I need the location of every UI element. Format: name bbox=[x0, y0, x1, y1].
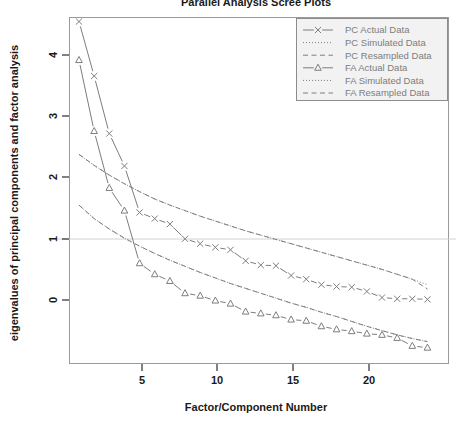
series-segment bbox=[126, 215, 138, 258]
series-segment bbox=[311, 281, 317, 283]
series-line bbox=[79, 205, 427, 341]
data-point-x-marker bbox=[212, 244, 218, 250]
data-point-triangle-marker bbox=[91, 127, 98, 133]
data-point-x-marker bbox=[197, 241, 203, 247]
series-segment bbox=[80, 65, 93, 126]
data-point-x-marker bbox=[409, 296, 415, 302]
data-point-x-marker bbox=[394, 296, 400, 302]
data-point-x-marker bbox=[349, 284, 355, 290]
data-point-triangle-marker bbox=[227, 300, 234, 306]
series-segment bbox=[402, 340, 408, 343]
series-segment bbox=[144, 214, 150, 216]
data-point-x-marker bbox=[167, 221, 173, 227]
data-point-triangle-marker bbox=[76, 56, 83, 62]
x-tick-label-15: 15 bbox=[287, 374, 299, 386]
data-point-triangle-marker bbox=[212, 297, 219, 303]
series-segment bbox=[159, 276, 165, 279]
y-axis-ticks bbox=[62, 55, 69, 300]
data-point-triangle-marker bbox=[424, 344, 431, 350]
data-point-x-marker bbox=[227, 247, 233, 253]
y-tick-label-0: 0 bbox=[47, 297, 59, 303]
data-point-x-marker bbox=[152, 216, 158, 222]
data-point-x-marker bbox=[424, 296, 430, 302]
data-point-x-marker bbox=[364, 288, 370, 294]
data-point-x-marker bbox=[243, 258, 249, 264]
series-segment bbox=[326, 285, 331, 286]
legend-entry-0: PC Actual Data bbox=[303, 24, 410, 35]
series-segment bbox=[220, 302, 225, 303]
series-segment bbox=[144, 266, 151, 271]
data-point-triangle-marker bbox=[151, 271, 158, 277]
series-1 bbox=[79, 154, 427, 284]
legend-label: FA Resampled Data bbox=[345, 87, 430, 98]
series-segment bbox=[205, 297, 211, 299]
series-segment bbox=[357, 289, 363, 291]
data-point-x-marker bbox=[379, 294, 385, 300]
series-segment bbox=[205, 245, 210, 246]
series-segment bbox=[357, 332, 362, 333]
series-segment bbox=[111, 138, 122, 161]
series-segment bbox=[326, 327, 331, 328]
series-segment bbox=[250, 262, 256, 264]
series-segment bbox=[126, 171, 138, 208]
series-4 bbox=[79, 205, 427, 341]
data-point-x-marker bbox=[303, 276, 309, 282]
series-segment bbox=[280, 268, 287, 272]
series-segment bbox=[220, 248, 225, 249]
data-point-x-marker bbox=[333, 283, 339, 289]
y-tick-label-3: 3 bbox=[47, 113, 59, 119]
x-tick-label-20: 20 bbox=[363, 374, 375, 386]
series-2 bbox=[79, 154, 427, 289]
y-tick-label-1: 1 bbox=[47, 236, 59, 242]
legend-entry-3: FA Actual Data bbox=[303, 62, 408, 73]
data-point-triangle-marker bbox=[106, 184, 113, 190]
scree-plot-figure: 4 3 2 1 0 5 10 15 20 Factor/Component Nu… bbox=[0, 0, 456, 426]
series-segment bbox=[95, 136, 108, 183]
series-segment bbox=[342, 330, 347, 331]
legend-label: FA Actual Data bbox=[345, 62, 408, 73]
series-line bbox=[79, 154, 427, 284]
y-axis-title: eigenvalues of principal components and … bbox=[8, 45, 20, 341]
y-tick-label-2: 2 bbox=[47, 174, 59, 180]
legend-label: PC Actual Data bbox=[345, 24, 410, 35]
series-segment bbox=[417, 347, 422, 348]
data-point-x-marker bbox=[137, 209, 143, 215]
data-point-x-marker bbox=[121, 163, 127, 169]
data-point-x-marker bbox=[258, 262, 264, 268]
series-segment bbox=[80, 26, 92, 71]
x-axis-title: Factor/Component Number bbox=[185, 401, 328, 413]
x-tick-label-5: 5 bbox=[139, 374, 145, 386]
data-point-triangle-marker bbox=[288, 316, 295, 322]
series-segment bbox=[95, 81, 108, 129]
x-tick-label-10: 10 bbox=[211, 374, 223, 386]
series-segment bbox=[174, 284, 181, 290]
data-point-triangle-marker bbox=[121, 207, 128, 213]
series-segment bbox=[281, 317, 287, 319]
plot-title: Parallel Analysis Scree Plots bbox=[181, 0, 331, 8]
series-segment bbox=[235, 306, 241, 309]
data-point-x-marker bbox=[76, 18, 82, 24]
data-point-triangle-marker bbox=[348, 328, 355, 334]
series-segment bbox=[296, 277, 301, 278]
series-segment bbox=[173, 228, 181, 236]
series-segment bbox=[159, 220, 165, 222]
data-point-triangle-marker bbox=[379, 331, 386, 337]
plot-canvas: 4 3 2 1 0 5 10 15 20 Factor/Component Nu… bbox=[0, 0, 456, 426]
series-segment bbox=[112, 192, 122, 206]
data-point-triangle-marker bbox=[409, 342, 416, 348]
data-point-triangle-marker bbox=[167, 277, 174, 283]
series-line bbox=[79, 154, 427, 289]
data-point-triangle-marker bbox=[364, 330, 371, 336]
data-point-x-marker bbox=[273, 263, 279, 269]
data-point-triangle-marker bbox=[333, 326, 340, 332]
chart-legend: PC Actual DataPC Simulated DataPC Resamp… bbox=[297, 19, 448, 101]
y-tick-label-4: 4 bbox=[47, 51, 59, 58]
data-point-triangle-marker bbox=[318, 323, 325, 329]
data-point-triangle-marker bbox=[197, 292, 204, 298]
data-point-triangle-marker bbox=[242, 308, 249, 314]
data-point-x-marker bbox=[318, 282, 324, 288]
series-segment bbox=[266, 314, 271, 315]
data-point-triangle-marker bbox=[182, 290, 189, 296]
series-segment bbox=[235, 253, 242, 258]
data-point-triangle-marker bbox=[257, 310, 264, 316]
